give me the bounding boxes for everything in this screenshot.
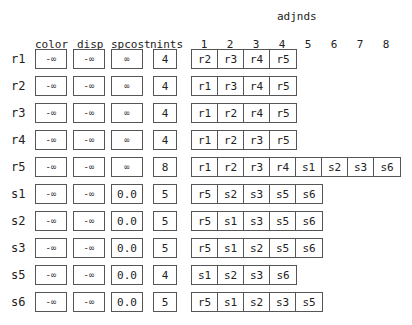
nints-box: 5	[153, 238, 177, 258]
adjnds-cell: s5	[270, 212, 296, 230]
adjnds-list: r1r2r3r5	[191, 130, 297, 150]
nints-box: 4	[153, 265, 177, 285]
color-box: -∞	[35, 157, 67, 177]
adjnds-cell: r5	[270, 131, 296, 149]
adjnds-cell: s6	[270, 266, 296, 284]
adjnds-list: r5s2s3s5s6	[191, 184, 323, 204]
spcost-box: ∞	[111, 157, 143, 177]
adjnds-header: adjnds	[277, 10, 317, 23]
adjnds-list: r2r3r4r5	[191, 49, 297, 69]
adjnds-cell: r3	[244, 158, 270, 176]
adjnds-cell: s3	[348, 158, 374, 176]
spcost-box: 0.0	[111, 265, 143, 285]
adjnds-cell: s1	[218, 293, 244, 311]
adjnds-cell: s2	[322, 158, 348, 176]
adjnds-cell: s2	[244, 239, 270, 257]
adjnds-list: r5s1s2s3s5	[191, 292, 323, 312]
adjnds-cell: r5	[270, 104, 296, 122]
adj-column-number: 7	[347, 38, 373, 51]
adj-column-number: 6	[321, 38, 347, 51]
row-label: s6	[11, 295, 31, 309]
row-label: r5	[11, 160, 31, 174]
color-box: -∞	[35, 238, 67, 258]
adjnds-cell: r5	[270, 50, 296, 68]
adjnds-cell: r5	[270, 77, 296, 95]
adjnds-cell: r4	[244, 77, 270, 95]
adjnds-cell: s3	[244, 266, 270, 284]
color-box: -∞	[35, 292, 67, 312]
color-box: -∞	[35, 103, 67, 123]
color-box: -∞	[35, 130, 67, 150]
color-box: -∞	[35, 184, 67, 204]
color-box: -∞	[35, 49, 67, 69]
adjnds-list: r1r3r4r5	[191, 76, 297, 96]
adjnds-cell: s1	[192, 266, 218, 284]
adjnds-cell: s5	[296, 293, 322, 311]
spcost-box: ∞	[111, 130, 143, 150]
adjnds-list: r5s1s2s5s6	[191, 238, 323, 258]
adjnds-cell: s6	[296, 185, 322, 203]
disp-box: -∞	[73, 130, 105, 150]
adjnds-cell: r2	[218, 158, 244, 176]
adjnds-cell: s6	[374, 158, 400, 176]
adjnds-cell: r2	[218, 104, 244, 122]
disp-box: -∞	[73, 76, 105, 96]
disp-box: -∞	[73, 103, 105, 123]
row-label: r1	[11, 52, 31, 66]
row-label: r3	[11, 106, 31, 120]
adjnds-cell: r5	[192, 212, 218, 230]
nints-box: 5	[153, 211, 177, 231]
nints-box: 4	[153, 103, 177, 123]
nints-box: 4	[153, 130, 177, 150]
spcost-box: 0.0	[111, 184, 143, 204]
disp-box: -∞	[73, 49, 105, 69]
color-box: -∞	[35, 265, 67, 285]
disp-box: -∞	[73, 292, 105, 312]
adjnds-cell: s2	[218, 266, 244, 284]
nints-box: 4	[153, 49, 177, 69]
row-label: s2	[11, 214, 31, 228]
adjnds-cell: s2	[244, 293, 270, 311]
adjnds-cell: r3	[218, 50, 244, 68]
nints-box: 4	[153, 76, 177, 96]
color-box: -∞	[35, 211, 67, 231]
adjnds-cell: r2	[218, 131, 244, 149]
nints-box: 5	[153, 184, 177, 204]
spcost-box: ∞	[111, 103, 143, 123]
adjnds-cell: r3	[218, 77, 244, 95]
adjnds-cell: s1	[296, 158, 322, 176]
spcost-box: ∞	[111, 49, 143, 69]
adjnds-cell: r5	[192, 239, 218, 257]
adjnds-cell: r1	[192, 131, 218, 149]
adjnds-list: r5s1s3s5s6	[191, 211, 323, 231]
row-label: s3	[11, 241, 31, 255]
spcost-box: 0.0	[111, 292, 143, 312]
adjnds-cell: s3	[244, 185, 270, 203]
disp-box: -∞	[73, 265, 105, 285]
disp-box: -∞	[73, 184, 105, 204]
adjnds-cell: s1	[218, 239, 244, 257]
adjnds-list: r1r2r4r5	[191, 103, 297, 123]
adjnds-cell: r5	[192, 185, 218, 203]
disp-box: -∞	[73, 211, 105, 231]
adjnds-cell: s2	[218, 185, 244, 203]
adj-column-number: 8	[373, 38, 399, 51]
adjnds-cell: s6	[296, 239, 322, 257]
adjnds-cell: r5	[192, 293, 218, 311]
row-label: s1	[11, 187, 31, 201]
adjnds-cell: s1	[218, 212, 244, 230]
adjnds-cell: r1	[192, 104, 218, 122]
spcost-box: 0.0	[111, 211, 143, 231]
adjnds-cell: s3	[244, 212, 270, 230]
color-box: -∞	[35, 76, 67, 96]
adjnds-list: r1r2r3r4s1s2s3s6	[191, 157, 401, 177]
row-label: r4	[11, 133, 31, 147]
adjnds-cell: s6	[296, 212, 322, 230]
adjnds-cell: s3	[270, 293, 296, 311]
adjnds-list: s1s2s3s6	[191, 265, 297, 285]
row-label: r2	[11, 79, 31, 93]
row-label: s5	[11, 268, 31, 282]
spcost-box: ∞	[111, 76, 143, 96]
adjnds-cell: r4	[244, 50, 270, 68]
adjnds-cell: s5	[270, 185, 296, 203]
